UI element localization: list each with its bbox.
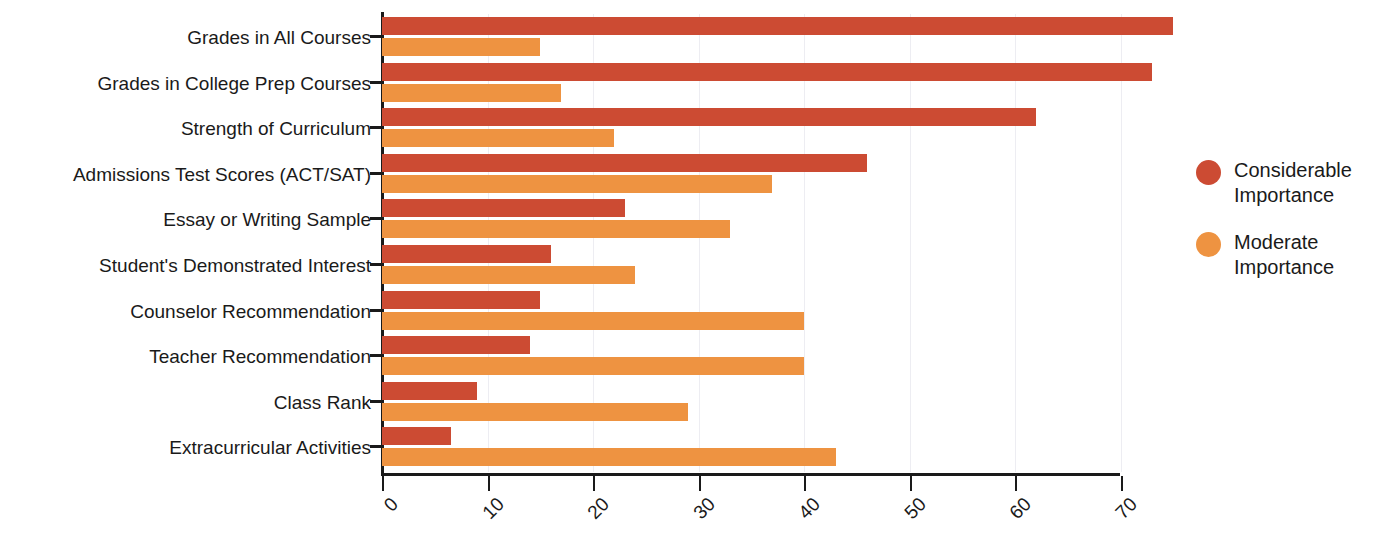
x-axis-tick-label: 30 <box>676 494 718 536</box>
bar-moderate <box>382 84 561 102</box>
legend-item-considerable[interactable]: Considerable Importance <box>1196 158 1371 208</box>
y-axis-tick <box>370 354 382 357</box>
bar-considerable <box>382 427 451 445</box>
legend-label-line1: Considerable <box>1234 159 1352 181</box>
bar-considerable <box>382 63 1152 81</box>
bar-group <box>382 108 1120 148</box>
bar-considerable <box>382 199 625 217</box>
x-axis-tick-label: 40 <box>782 494 824 536</box>
y-axis-label: Grades in All Courses <box>0 28 371 47</box>
x-axis-tick <box>699 476 701 491</box>
legend-label-moderate: Moderate Importance <box>1234 230 1334 280</box>
y-axis-label: Counselor Recommendation <box>0 302 371 321</box>
bar-group <box>382 382 1120 422</box>
bar-moderate <box>382 38 540 56</box>
x-axis-tick-label: 50 <box>887 494 929 536</box>
bar-considerable <box>382 154 867 172</box>
y-axis-label: Admissions Test Scores (ACT/SAT) <box>0 165 371 184</box>
plot-area <box>382 14 1120 472</box>
bar-moderate <box>382 312 804 330</box>
x-axis-tick <box>1121 476 1123 491</box>
bar-group <box>382 17 1120 57</box>
legend-label-considerable: Considerable Importance <box>1234 158 1352 208</box>
x-axis-tick-label: 70 <box>1098 494 1140 536</box>
bar-considerable <box>382 245 551 263</box>
y-axis-label: Grades in College Prep Courses <box>0 74 371 93</box>
y-axis-tick <box>370 126 382 129</box>
y-axis-tick <box>370 445 382 448</box>
x-axis-line <box>381 473 1120 476</box>
bar-group <box>382 336 1120 376</box>
y-axis-labels: Grades in All CoursesGrades in College P… <box>0 14 371 472</box>
legend-swatch-moderate <box>1196 232 1221 257</box>
legend-label-line2: Importance <box>1234 184 1334 206</box>
y-axis-tick <box>370 263 382 266</box>
y-axis-tick <box>370 81 382 84</box>
bar-moderate <box>382 175 772 193</box>
chart-container: Grades in All CoursesGrades in College P… <box>0 0 1375 542</box>
bar-group <box>382 245 1120 285</box>
bar-moderate <box>382 357 804 375</box>
bar-considerable <box>382 108 1036 126</box>
x-axis-tick-label: 60 <box>993 494 1035 536</box>
bar-considerable <box>382 382 477 400</box>
bar-moderate <box>382 266 635 284</box>
gridline <box>1121 14 1122 472</box>
y-axis-label: Strength of Curriculum <box>0 119 371 138</box>
y-axis-label: Teacher Recommendation <box>0 347 371 366</box>
bar-moderate <box>382 220 730 238</box>
y-axis-tick <box>370 400 382 403</box>
y-axis-label: Student's Demonstrated Interest <box>0 256 371 275</box>
x-axis-tick <box>593 476 595 491</box>
bar-considerable <box>382 17 1173 35</box>
bar-group <box>382 291 1120 331</box>
bar-moderate <box>382 403 688 421</box>
legend-label-line1: Moderate <box>1234 231 1319 253</box>
bar-group <box>382 427 1120 467</box>
bar-group <box>382 154 1120 194</box>
legend-item-moderate[interactable]: Moderate Importance <box>1196 230 1371 280</box>
x-axis-tick-label: 0 <box>360 494 402 536</box>
x-axis-tick <box>910 476 912 491</box>
bar-moderate <box>382 448 836 466</box>
x-axis-tick <box>804 476 806 491</box>
y-axis-tick <box>370 217 382 220</box>
bar-moderate <box>382 129 614 147</box>
x-axis-tick <box>488 476 490 491</box>
y-axis-label: Essay or Writing Sample <box>0 210 371 229</box>
x-axis-tick <box>382 476 384 491</box>
y-axis-label: Class Rank <box>0 393 371 412</box>
bar-considerable <box>382 336 530 354</box>
y-axis-label: Extracurricular Activities <box>0 438 371 457</box>
x-axis-tick-label: 10 <box>465 494 507 536</box>
bar-considerable <box>382 291 540 309</box>
legend-swatch-considerable <box>1196 160 1221 185</box>
x-axis-tick <box>1015 476 1017 491</box>
chart-legend: Considerable Importance Moderate Importa… <box>1196 158 1371 302</box>
y-axis-tick <box>370 172 382 175</box>
x-axis-tick-label: 20 <box>571 494 613 536</box>
y-axis-tick <box>370 35 382 38</box>
legend-label-line2: Importance <box>1234 256 1334 278</box>
y-axis-tick <box>370 309 382 312</box>
bar-group <box>382 199 1120 239</box>
bar-group <box>382 63 1120 103</box>
